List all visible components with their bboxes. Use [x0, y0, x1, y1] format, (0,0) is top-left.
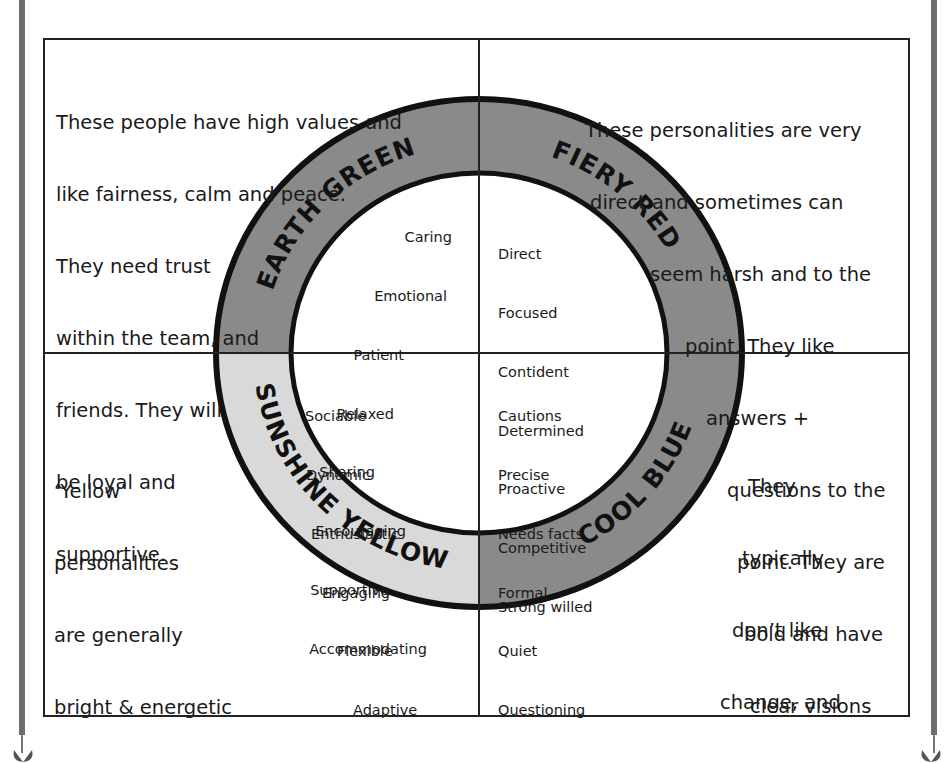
trait: Patient — [300, 346, 452, 366]
desc-line: bright & energetic — [54, 696, 365, 720]
yellow-description: ‘Yellow’ personalities are generally bri… — [54, 432, 365, 763]
desc-line: change, and — [490, 691, 910, 715]
desc-line: seem harsh and to the — [560, 263, 900, 287]
desc-line: typically — [490, 547, 910, 571]
desc-line: are generally — [54, 624, 365, 648]
vertical-divider — [478, 38, 480, 715]
desc-line: direct and sometimes can — [560, 191, 900, 215]
desc-line: point. They like — [560, 335, 900, 359]
trait: Focused — [498, 304, 592, 324]
trait: Caring — [300, 228, 452, 248]
desc-line: don’t like — [490, 619, 910, 643]
blue-description: They typically don’t like change, and ne… — [490, 427, 910, 763]
trait: Cautions — [498, 407, 585, 427]
trait: Direct — [498, 245, 592, 265]
desc-line: These personalities are very — [560, 119, 900, 143]
desc-line: These people have high values and — [56, 111, 402, 135]
trait: Emotional — [300, 287, 452, 307]
trait: Sociable — [305, 407, 446, 427]
desc-line: They — [490, 475, 910, 499]
desc-line: ‘Yellow’ — [54, 480, 365, 504]
desc-line: personalities — [54, 552, 365, 576]
